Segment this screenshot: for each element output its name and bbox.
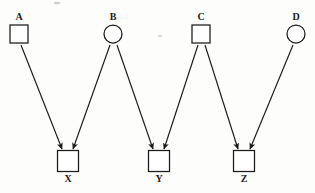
- node-d-circle: [287, 25, 305, 43]
- edge-c-to-z: [205, 45, 238, 149]
- speck-top: [54, 2, 60, 5]
- node-layer: [10, 25, 305, 172]
- edge-b-to-x: [73, 45, 110, 149]
- node-c-square: [192, 25, 210, 43]
- node-label-y: Y: [155, 173, 163, 184]
- node-label-d: D: [292, 11, 299, 22]
- diagram-canvas: ABCDXYZ: [0, 0, 315, 193]
- node-label-z: Z: [241, 173, 248, 184]
- bipartite-arrow-diagram: ABCDXYZ: [0, 0, 315, 193]
- node-z-square: [234, 151, 255, 172]
- node-label-c: C: [197, 11, 204, 22]
- edge-c-to-y: [164, 45, 198, 149]
- speck-mid: [158, 35, 162, 37]
- edge-b-to-y: [117, 45, 153, 149]
- node-b-circle: [104, 25, 122, 43]
- edge-d-to-z: [250, 45, 293, 149]
- node-x-square: [58, 151, 79, 172]
- node-a-square: [10, 25, 28, 43]
- node-label-x: X: [64, 173, 72, 184]
- node-label-a: A: [15, 11, 23, 22]
- edge-a-to-x: [21, 45, 62, 149]
- node-y-square: [149, 151, 170, 172]
- edge-layer: [21, 45, 293, 149]
- node-label-b: B: [110, 11, 117, 22]
